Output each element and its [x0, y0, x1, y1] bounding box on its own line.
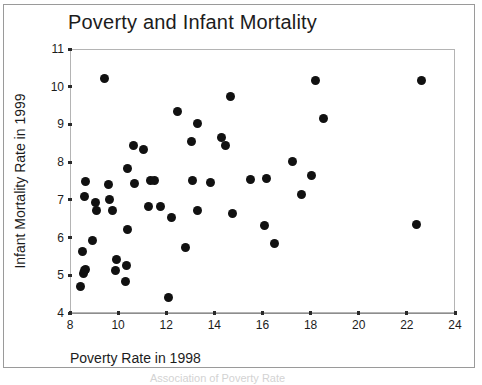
y-tick-mark: [68, 161, 72, 164]
y-tick-mark: [68, 48, 72, 51]
x-tick-mark: [357, 311, 360, 315]
y-tick-mark: [68, 274, 72, 277]
scatter-point: [111, 266, 120, 275]
scatter-point: [144, 202, 153, 211]
scatter-point: [297, 190, 306, 199]
background-bleed-text: Association of Poverty Rate: [150, 372, 285, 384]
x-tick-mark: [309, 311, 312, 315]
scatter-point: [270, 239, 279, 248]
x-tick-label: 20: [352, 318, 365, 332]
x-axis-label: Poverty Rate in 1998: [70, 350, 201, 366]
scatter-point: [262, 174, 271, 183]
x-tick-label: 22: [400, 318, 413, 332]
x-tick-mark: [213, 311, 216, 315]
figure-container: Poverty and Infant Mortality 4567891011 …: [0, 0, 482, 385]
page-title: Poverty and Infant Mortality: [68, 11, 317, 34]
x-tick-mark: [261, 311, 264, 315]
scatter-point: [417, 76, 426, 85]
y-tick-label: 8: [57, 155, 64, 169]
x-tick-label: 16: [256, 318, 269, 332]
scatter-point: [81, 177, 90, 186]
y-tick-mark: [68, 85, 72, 88]
scatter-point: [105, 195, 114, 204]
scatter-point: [167, 213, 176, 222]
x-tick-label: 24: [448, 318, 461, 332]
scatter-point: [150, 176, 159, 185]
x-tick-mark: [117, 311, 120, 315]
y-tick-label: 7: [57, 193, 64, 207]
scatter-point: [288, 157, 297, 166]
x-tick-label: 8: [67, 318, 74, 332]
scatter-point: [260, 221, 269, 230]
y-tick-label: 6: [57, 231, 64, 245]
scatter-point: [193, 206, 202, 215]
scatter-point: [187, 137, 196, 146]
y-tick-label: 5: [57, 268, 64, 282]
y-axis-label: Infant Mortality Rate in 1999: [12, 93, 28, 268]
y-tick-label: 10: [51, 80, 64, 94]
x-tick-label: 18: [304, 318, 317, 332]
scatter-point: [164, 293, 173, 302]
scatter-point: [92, 206, 101, 215]
x-tick-label: 14: [208, 318, 221, 332]
scatter-point: [221, 141, 230, 150]
x-tick-mark: [69, 311, 72, 315]
scatter-point: [193, 119, 202, 128]
x-tick-label: 10: [111, 318, 124, 332]
scatter-point: [121, 277, 130, 286]
scatter-point: [226, 92, 235, 101]
scatter-point: [188, 176, 197, 185]
y-tick-label: 11: [52, 42, 64, 56]
scatter-point: [246, 175, 255, 184]
scatter-point: [80, 192, 89, 201]
scatter-point: [412, 220, 421, 229]
scatter-point: [108, 206, 117, 215]
x-tick-mark: [165, 311, 168, 315]
y-tick-mark: [68, 236, 72, 239]
x-tick-label: 12: [160, 318, 173, 332]
y-tick-label: 4: [57, 306, 64, 320]
y-tick-mark: [68, 123, 72, 126]
y-tick-label: 9: [57, 117, 64, 131]
scatter-point: [78, 247, 87, 256]
y-tick-mark: [68, 198, 72, 201]
scatter-point: [156, 202, 165, 211]
scatter-point: [123, 225, 132, 234]
x-tick-mark: [454, 311, 457, 315]
x-tick-mark: [405, 311, 408, 315]
scatter-point: [104, 180, 113, 189]
